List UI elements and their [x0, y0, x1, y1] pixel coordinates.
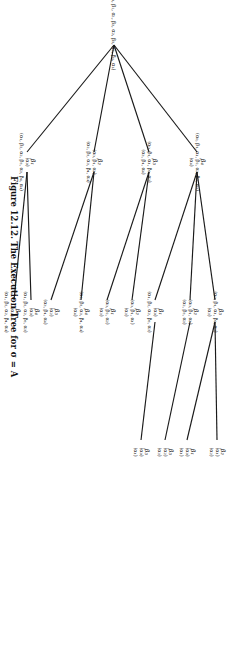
tree-node-b2b4[interactable]: β₄ (α₂, β₃, α₃, β₄, α₄) (α₄) — [71, 291, 90, 333]
tree-node-b4b3b1[interactable]: β₁ (α₀) (α₁) — [177, 447, 196, 456]
tree-node-b3b2[interactable]: β₂ (α₀, β₁, α₁) (α₃) — [122, 299, 141, 324]
rotated-page-wrapper: (α₀, β₁, α₁, β₂, α₂, β₃, α₃, β₄, α₄) β₄ … — [0, 0, 227, 671]
node-sequence-bottom: (α₃) — [122, 299, 128, 324]
node-sequence-bottom: (α₂, β₃, α₃) — [180, 299, 186, 324]
node-operation: β₁ — [157, 291, 164, 333]
node-operation: β₂ — [219, 447, 226, 456]
node-operation: β₃ — [217, 291, 224, 333]
tree-node-b3[interactable]: β₃ (α₀, β₁, α₁, β₂, α₂) (α₃, β₄, α₄) — [139, 141, 158, 183]
node-sequence-bottom: (α₃) — [97, 299, 103, 324]
node-operation: β₄ — [33, 291, 40, 333]
tree-node-b4b3b2[interactable]: β₂ (α₁) (α₂) — [207, 447, 226, 456]
edge-b3-b3b2 — [132, 172, 149, 300]
node-sequence-bottom: (α₄) — [187, 133, 193, 191]
node-sequence-bottom: (α₁, β₂, α₂, β₄, α₄) — [2, 291, 8, 333]
node-operation: β₄ — [83, 291, 90, 333]
tree-node-b4b2[interactable]: β₂ (α₀, β₁, α₁) (α₂, β₃, α₃) — [180, 299, 199, 324]
node-operation: β₃ — [53, 299, 60, 324]
tree-node-b2b3[interactable]: β₃ (α₂) (α₃, β₄, α₄) — [41, 299, 60, 324]
tree-node-b4b2b3[interactable]: β₃ (α₂) (α₃) — [155, 447, 174, 456]
tree-node-b4b3[interactable]: β₃ (α₀, β₁, α₁, β₂, α₂) (α₃) — [205, 291, 224, 333]
edge-b3-b3b1 — [107, 172, 149, 300]
node-operation: β₄ — [199, 133, 206, 191]
node-operation: β₃ — [143, 447, 150, 456]
tree-node-b4b1b3[interactable]: β₃ (α₀) (α₁) — [131, 447, 150, 456]
node-sequence-bottom: (α₃) — [205, 291, 211, 333]
node-operation: β₃ — [151, 141, 158, 183]
node-operation: β₂ — [96, 141, 103, 183]
node-operation: β₂ — [192, 299, 199, 324]
tree-node-b4[interactable]: β₄ (α₀, β₁, α₁, β₂, α₂, β₃, α₃) (α₄) — [187, 133, 206, 191]
node-operation: β₃ — [167, 447, 174, 456]
node-operation: β₂ — [134, 299, 141, 324]
node-operation: β₁ — [109, 299, 116, 324]
edge-b4b1-b4b1b3 — [141, 322, 155, 440]
node-operation: β₁ — [29, 133, 36, 191]
edge-root-b3 — [114, 45, 149, 152]
node-sequence-bottom: (α₃) — [155, 447, 161, 456]
edge-b4b2-b4b2b3 — [165, 322, 190, 440]
execution-tree-figure: (α₀, β₁, α₁, β₂, α₂, β₃, α₃, β₄, α₄) β₄ … — [0, 0, 227, 671]
node-sequence-bottom: (α₃, β₄, α₄) — [139, 141, 145, 183]
edge-b4b3-b4b3b1 — [187, 322, 215, 440]
figure-caption: Figure 12.12. The Execution Tree for σ =… — [9, 176, 19, 606]
edge-b4-b4b3 — [197, 172, 215, 300]
node-sequence-bottom: (α₀, β₁, α₁, β₂, α₂, β₃, α₃, β₄, α₄) — [111, 0, 117, 70]
tree-node-b1[interactable]: β₁ (α₀) (α₁, β₂, α₂, β₃, α₃, β₄, α₄) — [17, 133, 36, 191]
node-sequence-bottom: (α₂) — [207, 447, 213, 456]
edge-root-b1 — [27, 45, 114, 152]
tree-edges — [0, 0, 227, 671]
edge-b1-b1b4 — [27, 172, 31, 300]
figure-caption-text: The Execution Tree for σ = A — [9, 242, 19, 378]
node-sequence-bottom: (α₂, β₃, α₃, β₄, α₄) — [84, 141, 90, 183]
node-sequence-bottom: (α₁) — [131, 447, 137, 456]
edge-root-b4 — [114, 45, 197, 152]
tree-node-b4b1[interactable]: β₁ (α₀) (α₁, β₂, α₂, β₃, α₃) — [145, 291, 164, 333]
tree-node-b2[interactable]: β₂ (α₀, β₁, α₁) (α₂, β₃, α₃, β₄, α₄) — [84, 141, 103, 183]
figure-caption-label: Figure 12.12. — [9, 176, 19, 239]
tree-node-b3b1[interactable]: β₁ (α₀, β₂, α₂) (α₃) — [97, 299, 116, 324]
tree-node-root[interactable]: (α₀, β₁, α₁, β₂, α₂, β₃, α₃, β₄, α₄) — [111, 0, 117, 70]
node-sequence-bottom: (α₃, β₄, α₄) — [41, 299, 47, 324]
node-sequence-bottom: (α₁) — [177, 447, 183, 456]
node-operation: β₁ — [189, 447, 196, 456]
tree-node-b1b4[interactable]: β₄ (α₀) (α₁, β₂, α₂, β₃, α₃) — [21, 291, 40, 333]
node-sequence-bottom: (α₄) — [71, 291, 77, 333]
node-sequence-bottom: (α₁, β₂, α₂, β₃, α₃) — [21, 291, 27, 333]
edge-b4b3-b4b3b2 — [215, 322, 217, 440]
node-sequence-bottom: (α₁, β₂, α₂, β₃, α₃) — [145, 291, 151, 333]
